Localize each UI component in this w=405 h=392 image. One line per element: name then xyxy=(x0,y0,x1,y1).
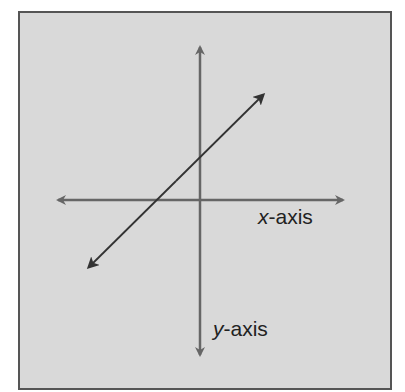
x-axis-label: x-axis xyxy=(258,205,313,229)
y-axis-label: y-axis xyxy=(213,317,268,341)
diagonal-line xyxy=(89,95,263,267)
coordinate-plane xyxy=(0,0,405,392)
